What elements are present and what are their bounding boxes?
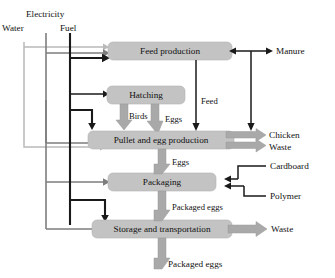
flow-diagram-svg: Feed production Hatching Pullet and egg … — [0, 0, 335, 278]
cardboard-connector — [224, 166, 266, 183]
eggs-up-connector — [147, 104, 163, 131]
output-label-packaged-eggs-final: Packaged eggs — [168, 259, 223, 269]
manure-connector — [229, 47, 273, 131]
process-label-feed-production: Feed production — [140, 46, 200, 56]
process-storage-and-transportation[interactable]: Storage and transportation — [92, 220, 232, 238]
output-label-chicken: Chicken — [269, 130, 300, 140]
input-label-water: Water — [2, 23, 24, 33]
flow-label-packaged-eggs: Packaged eggs — [172, 202, 223, 212]
process-pullet-and-egg-production[interactable]: Pullet and egg production — [88, 131, 234, 149]
process-hatching[interactable]: Hatching — [107, 86, 185, 104]
diagram-canvas: Feed production Hatching Pullet and egg … — [0, 0, 335, 278]
packaged-eggs-connector — [154, 191, 170, 221]
process-label-packaging: Packaging — [143, 177, 182, 187]
flow-label-eggs-up: Eggs — [165, 114, 183, 124]
feed-connector — [192, 60, 199, 131]
process-feed-production[interactable]: Feed production — [108, 42, 232, 60]
material-label-manure: Manure — [276, 46, 305, 56]
input-label-electricity: Electricity — [26, 9, 65, 19]
material-label-cardboard: Cardboard — [270, 161, 309, 171]
flow-label-eggs-down: Eggs — [172, 157, 190, 167]
output-label-waste-pullet: Waste — [269, 142, 291, 152]
waste-storage-output-arrow — [228, 222, 267, 237]
process-label-hatching: Hatching — [129, 90, 163, 100]
process-label-storage-and-transportation: Storage and transportation — [114, 224, 211, 234]
process-label-pullet-and-egg-production: Pullet and egg production — [114, 135, 209, 145]
eggs-down-connector — [154, 149, 170, 174]
output-label-waste-storage: Waste — [271, 224, 293, 234]
polymer-connector — [224, 182, 266, 196]
flow-label-feed: Feed — [201, 96, 218, 106]
input-label-fuel: Fuel — [60, 23, 77, 33]
fuel-flow-line — [70, 33, 110, 225]
flow-label-birds: Birds — [129, 111, 148, 121]
process-packaging[interactable]: Packaging — [108, 173, 216, 191]
material-label-polymer: Polymer — [270, 191, 301, 201]
